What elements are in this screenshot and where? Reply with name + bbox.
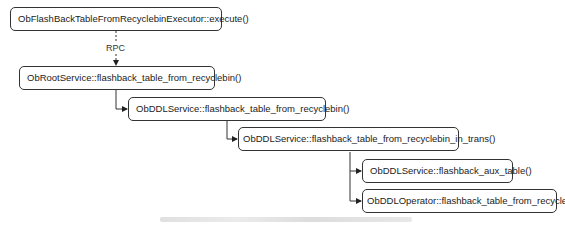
node-ddlservice-flashback: ObDDLService::flashback_table_from_recyc…	[128, 97, 326, 121]
node-rootservice-flashback: ObRootService::flashback_table_from_recy…	[19, 66, 215, 90]
edge-n2-n3	[116, 90, 127, 109]
edge-n4-n5	[350, 152, 361, 171]
edge-label-rpc: RPC	[106, 43, 125, 53]
figure-caption	[160, 217, 412, 222]
node-executor-execute: ObFlashBackTableFromRecyclebinExecutor::…	[10, 7, 222, 31]
node-ddloperator-flashback: ObDDLOperator::flashback_table_from_recy…	[362, 189, 557, 213]
edge-n3-n4	[227, 121, 237, 139]
node-ddlservice-flashback-in-trans: ObDDLService::flashback_table_from_recyc…	[238, 127, 459, 151]
edge-n4-n6	[350, 171, 361, 201]
node-ddlservice-flashback-aux-table: ObDDLService::flashback_aux_table()	[362, 159, 513, 183]
